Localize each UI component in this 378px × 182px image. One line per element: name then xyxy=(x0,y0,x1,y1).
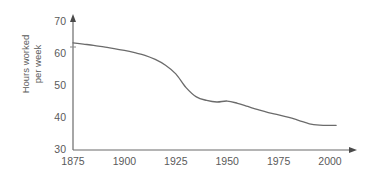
x-axis-arrow-icon xyxy=(349,147,357,153)
series-line-hours-worked xyxy=(73,43,336,126)
x-axis-line xyxy=(73,147,357,153)
line-chart: Hours worked per week 70 60 50 40 30 187… xyxy=(0,0,378,182)
y-axis-tick-label-70: 70 xyxy=(44,16,66,27)
x-axis-tick-label-1950: 1950 xyxy=(207,156,247,167)
x-axis-tick-label-1925: 1925 xyxy=(156,156,196,167)
y-axis-arrow-icon xyxy=(70,14,76,22)
y-axis-line xyxy=(70,14,76,150)
y-axis-tick-label-60: 60 xyxy=(44,48,66,59)
x-axis-tick-label-2000: 2000 xyxy=(310,156,350,167)
y-axis-tick-label-40: 40 xyxy=(44,112,66,123)
y-axis-tick-label-50: 50 xyxy=(44,80,66,91)
x-axis-tick-label-1900: 1900 xyxy=(104,156,144,167)
y-axis-tick-label-30: 30 xyxy=(44,144,66,155)
x-axis-tick-label-1975: 1975 xyxy=(259,156,299,167)
x-axis-tick-label-1875: 1875 xyxy=(53,156,93,167)
